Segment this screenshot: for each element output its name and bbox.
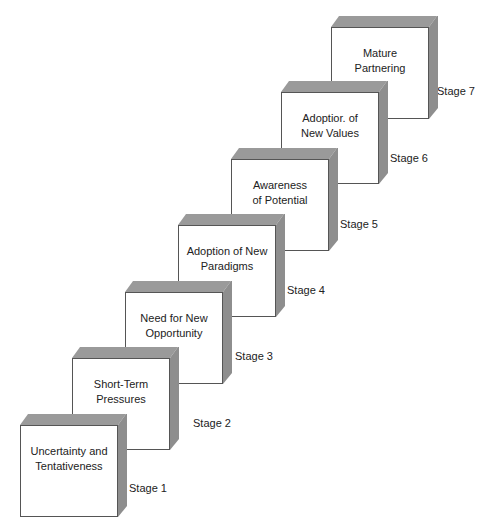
box-top-face [281, 81, 387, 92]
box-side-face [276, 214, 285, 317]
box-side-face [429, 16, 438, 119]
label-line-1: Adoption of New [179, 244, 275, 259]
box-top-face [178, 214, 284, 225]
box-side-face [379, 81, 388, 184]
stage-2-caption: Stage 2 [193, 417, 231, 429]
stage-4-label: Adoption of New Paradigms [179, 244, 275, 274]
box-top-face [125, 281, 231, 292]
box-top-face [72, 347, 178, 358]
stage-5-label: Awareness of Potential [232, 178, 328, 208]
label-line-2: New Values [282, 126, 378, 141]
label-line-1: Short-Term [73, 377, 169, 392]
stage-6-caption: Stage 6 [390, 152, 428, 164]
stage-1-caption: Stage 1 [129, 482, 167, 494]
label-line-2: Pressures [73, 392, 169, 407]
stage-3-label: Need for New Opportunity [126, 311, 222, 341]
stage-7-caption: Stage 7 [437, 85, 475, 97]
box-top-face [231, 148, 337, 159]
stage-4-caption: Stage 4 [287, 284, 325, 296]
stage-7-label: Mature Partnering [332, 46, 428, 76]
stage-3-caption: Stage 3 [235, 350, 273, 362]
box-side-face [329, 148, 338, 251]
label-line-1: Adoptior. of [282, 111, 378, 126]
label-line-2: Paradigms [179, 259, 275, 274]
label-line-2: of Potential [232, 193, 328, 208]
box-side-face [118, 414, 127, 517]
box-side-face [223, 281, 232, 384]
stage-2-label: Short-Term Pressures [73, 377, 169, 407]
label-line-1: Mature [332, 46, 428, 61]
box-side-face [170, 347, 179, 450]
label-line-2: Partnering [332, 61, 428, 76]
box-front-face: Uncertainty and Tentativeness [20, 425, 118, 517]
label-line-2: Tentativeness [21, 459, 117, 474]
stage-5-caption: Stage 5 [340, 218, 378, 230]
box-top-face [20, 414, 126, 425]
box-top-face [331, 16, 437, 27]
label-line-1: Awareness [232, 178, 328, 193]
label-line-1: Need for New [126, 311, 222, 326]
label-line-1: Uncertainty and [21, 444, 117, 459]
stage-1-label: Uncertainty and Tentativeness [21, 444, 117, 474]
stage-6-label: Adoptior. of New Values [282, 111, 378, 141]
label-line-2: Opportunity [126, 326, 222, 341]
stage-1-box: Uncertainty and Tentativeness [20, 425, 118, 517]
